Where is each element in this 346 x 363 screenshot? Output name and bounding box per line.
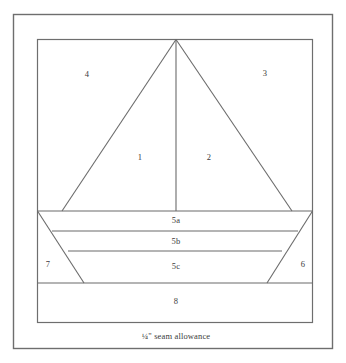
piece-label-5b: 5b	[172, 236, 181, 246]
piece-label-3: 3	[263, 68, 267, 78]
piece-label-5c: 5c	[172, 261, 180, 271]
piece-label-6: 6	[301, 259, 305, 269]
piece-label-5a: 5a	[172, 215, 180, 225]
piece-label-4: 4	[85, 69, 90, 79]
piece-label-8: 8	[174, 296, 178, 306]
seam-allowance-caption: ¼" seam allowance	[142, 331, 211, 341]
sailboat-block-diagram: 1 2 3 4 5a 5b 5c 6 7 8 ¼" seam allowance	[0, 0, 346, 363]
diagram-background	[0, 0, 346, 363]
diagram-page: 1 2 3 4 5a 5b 5c 6 7 8 ¼" seam allowance	[0, 0, 346, 363]
piece-label-1: 1	[138, 152, 142, 162]
piece-label-2: 2	[207, 152, 211, 162]
piece-label-7: 7	[46, 259, 50, 269]
